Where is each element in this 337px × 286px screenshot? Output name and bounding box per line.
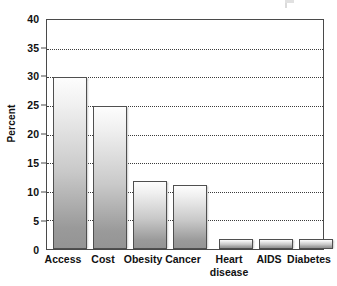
bar-chart: Percent 40 35 30 25 20 15 10 5 0 <box>0 0 337 286</box>
y-tick-label: 25 <box>27 99 39 111</box>
bar-cancer[interactable] <box>173 185 207 249</box>
y-tick-label: 15 <box>27 157 39 169</box>
y-tick-label: 20 <box>27 128 39 140</box>
bar-heart-disease[interactable] <box>219 239 253 249</box>
bar-obesity[interactable] <box>133 181 167 249</box>
cropped-text-artifact <box>285 0 294 8</box>
y-tick-label: 10 <box>27 186 39 198</box>
y-tick-label: 30 <box>27 70 39 82</box>
y-tick-label: 35 <box>27 42 39 54</box>
plot-area <box>46 19 324 250</box>
x-tick-label-line2: disease <box>198 266 260 279</box>
bars-group <box>47 20 323 249</box>
y-tick-label: 40 <box>27 13 39 25</box>
bar-diabetes[interactable] <box>299 239 333 249</box>
y-tick-label: 5 <box>33 215 39 227</box>
bar-access[interactable] <box>53 77 87 249</box>
y-axis-tick-labels: 40 35 30 25 20 15 10 5 0 <box>0 0 46 286</box>
bar-cost[interactable] <box>93 106 127 249</box>
x-tick-label-diabetes: Diabetes <box>278 253 337 266</box>
bar-aids[interactable] <box>259 239 293 249</box>
x-axis-tick-labels: Access Cost Obesity Cancer Heart disease… <box>0 253 337 286</box>
